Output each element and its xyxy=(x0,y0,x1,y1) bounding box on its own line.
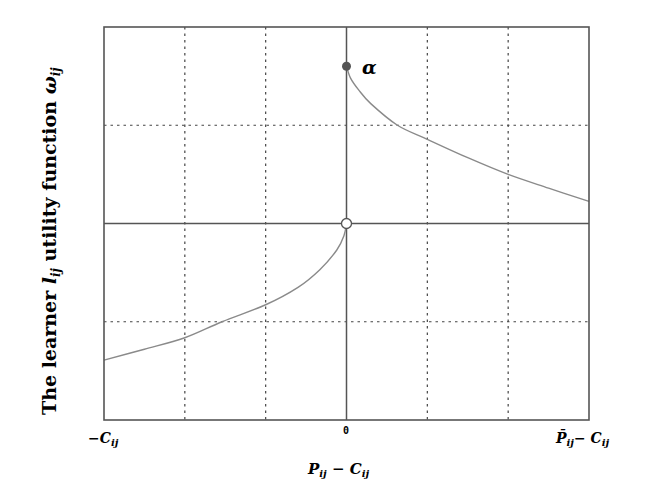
x-tick-right: P̄ij− Cij xyxy=(555,428,610,448)
alpha-point-marker xyxy=(342,62,351,71)
alpha-label: α xyxy=(362,56,377,78)
x-axis-title: Pij − Cij xyxy=(307,460,369,479)
x-tick-zero: 0 xyxy=(343,425,349,436)
y-axis-title: The learner lij utility function ωij xyxy=(38,67,63,415)
gain-curve xyxy=(347,66,590,201)
loss-curve xyxy=(104,224,347,361)
origin-open-point-marker xyxy=(342,219,352,229)
x-tick-left: −Cij xyxy=(88,430,119,448)
utility-function-chart: α −Cij 0 P̄ij− Cij Pij − Cij The learner… xyxy=(0,0,653,497)
